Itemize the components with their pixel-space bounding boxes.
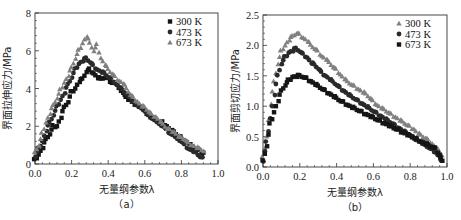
data-point [56, 91, 61, 96]
data-point [277, 92, 281, 96]
series-673k [32, 34, 207, 154]
y-axis-title: 界面拉伸应力/MPa [1, 47, 13, 131]
data-point [263, 152, 267, 156]
data-point [433, 145, 437, 149]
data-point [274, 104, 278, 108]
x-axis-title: 无量纲参数λ [99, 183, 155, 195]
data-point [266, 132, 270, 136]
x-tick-label: 0.6 [138, 168, 151, 179]
data-point [59, 116, 63, 120]
data-point [53, 108, 58, 113]
x-tick-label: 1.0 [440, 171, 453, 182]
data-point [277, 54, 282, 59]
legend-label: 673 K [405, 39, 431, 50]
legend: 300 K473 K673 K [396, 18, 431, 50]
legend-marker-circle-icon [168, 30, 173, 35]
data-point [73, 56, 78, 61]
legend: 300 K473 K673 K [167, 16, 202, 48]
data-point [74, 51, 79, 56]
y-tick-label: 0 [26, 159, 31, 170]
legend-label: 300 K [176, 16, 202, 27]
data-point [33, 155, 38, 160]
y-tick-label: 0.5 [246, 132, 259, 143]
legend-marker-square-icon [397, 42, 401, 46]
data-point [60, 109, 64, 113]
y-tick-label: 8 [26, 8, 31, 19]
data-point [276, 99, 280, 103]
data-point [94, 41, 99, 46]
y-axis-title: 界面剪切应力/MPa [229, 49, 241, 133]
y-tick-label: 2 [26, 121, 31, 132]
data-point [265, 144, 269, 148]
x-tick-label: 0.8 [175, 168, 188, 179]
x-tick-label: 0.8 [404, 171, 417, 182]
x-tick-label: 0.4 [102, 168, 116, 179]
data-point [260, 158, 264, 162]
legend-label: 673 K [176, 37, 202, 48]
y-tick-label: 2.5 [246, 10, 259, 21]
chart-b-shear-stress: 0.00.20.40.60.81.00.00.51.01.52.02.5300 … [229, 10, 454, 213]
legend-marker-square-icon [168, 19, 172, 23]
x-tick-label: 0.2 [65, 168, 78, 179]
legend-label: 473 K [405, 29, 431, 40]
data-point [87, 40, 92, 45]
data-point [56, 102, 61, 107]
data-point [73, 86, 77, 90]
y-tick-label: 0.0 [246, 162, 259, 173]
data-point [55, 124, 59, 128]
y-tick-label: 1.0 [246, 101, 259, 112]
legend-label: 300 K [405, 18, 431, 29]
x-tick-label: 0.4 [330, 171, 344, 182]
figure-canvas: 0.00.20.40.60.81.002468300 K473 K673 K无量… [0, 0, 461, 220]
data-point [270, 117, 274, 121]
legend-marker-circle-icon [397, 32, 402, 37]
data-point [440, 159, 444, 163]
data-point [277, 68, 282, 73]
legend-marker-triangle-icon [396, 21, 401, 26]
data-point [66, 100, 70, 104]
chart-a-tensile-stress: 0.00.20.40.60.81.002468300 K473 K673 K无量… [1, 8, 225, 210]
data-point [71, 61, 76, 66]
data-point [275, 73, 280, 78]
data-point [272, 110, 276, 114]
data-point [96, 50, 101, 55]
y-tick-label: 4 [26, 84, 32, 95]
data-point [200, 155, 205, 160]
y-tick-label: 6 [26, 46, 31, 57]
y-tick-label: 2.0 [246, 40, 259, 51]
data-point [90, 62, 95, 67]
series-473k [33, 55, 205, 159]
data-point [273, 82, 278, 87]
legend-label: 473 K [176, 27, 202, 38]
subfigure-caption: （b） [342, 202, 368, 213]
x-tick-label: 0.2 [293, 171, 306, 182]
data-point [63, 91, 68, 96]
x-axis-title: 无量纲参数λ [327, 186, 383, 198]
data-point [68, 94, 72, 98]
data-point [78, 45, 83, 50]
x-tick-label: 1.0 [211, 168, 224, 179]
legend-marker-triangle-icon [167, 40, 172, 45]
x-tick-label: 0.6 [367, 171, 380, 182]
data-point [267, 121, 271, 125]
data-point [87, 66, 91, 70]
data-point [263, 139, 268, 144]
y-tick-label: 1.5 [246, 71, 259, 82]
subfigure-caption: （a） [113, 199, 139, 210]
data-point [71, 71, 76, 76]
data-point [273, 93, 278, 98]
